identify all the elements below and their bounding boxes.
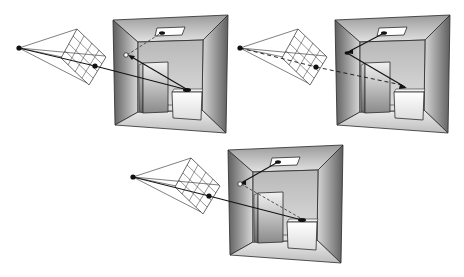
panel-top-right: [237, 15, 450, 133]
cornell-room: [335, 15, 450, 133]
ray-tracing-diagram: [0, 0, 464, 277]
cornell-room: [113, 15, 228, 133]
eye-camera-grid: [16, 29, 106, 85]
panel-bottom: [130, 145, 343, 263]
eye-camera-grid: [130, 158, 220, 214]
pixel-sample-icon: [206, 193, 211, 198]
pixel-sample-icon: [92, 63, 97, 68]
panel-top-left: [16, 15, 228, 133]
cornell-room: [228, 145, 343, 263]
pixel-sample-icon: [313, 64, 318, 69]
eye-camera-grid: [237, 29, 327, 85]
